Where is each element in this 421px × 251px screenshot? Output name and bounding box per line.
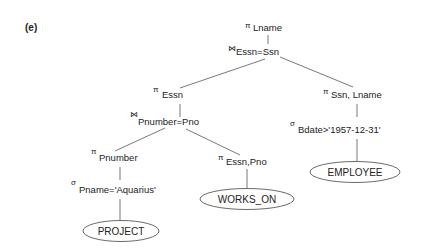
- node-subscript: Essn=Ssn: [236, 46, 279, 57]
- join-icon: ⋈: [228, 44, 236, 53]
- node-subscript: Bdate>'1957-12-31': [298, 124, 381, 135]
- sigma-icon: σ: [290, 119, 295, 128]
- edge-left-join-to-project-essn-pno: [186, 129, 240, 155]
- node-subscript: Essn,Pno: [226, 156, 267, 167]
- node-subscript: Pname='Aquarius': [79, 184, 156, 195]
- node-subscript: Essn: [162, 89, 183, 100]
- node-subscript: Pnumber: [99, 152, 138, 163]
- figure-label: (e): [25, 22, 37, 33]
- query-tree-diagram: (e) π Lname ⋈ Essn=Ssn π Essn ⋈ Pnumber=…: [0, 0, 421, 251]
- node-subscript: Pnumber=Pno: [138, 116, 199, 127]
- node-left-join: ⋈ Pnumber=Pno: [130, 110, 199, 127]
- node-select-pname: σ Pname='Aquarius': [71, 178, 156, 195]
- pi-icon: π: [91, 147, 97, 156]
- relation-label: EMPLOYEE: [327, 167, 382, 178]
- relation-project: PROJECT: [83, 221, 159, 242]
- node-project-essn-pno: π Essn,Pno: [218, 153, 267, 167]
- edge-root-join-to-left-project: [180, 59, 265, 88]
- edge-root-join-to-right-project: [280, 57, 353, 87]
- node-left-project: π Essn: [153, 85, 183, 100]
- relation-works-on: WORKS_ON: [200, 189, 294, 210]
- node-select-bdate: σ Bdate>'1957-12-31': [290, 119, 381, 135]
- relation-label: WORKS_ON: [218, 194, 276, 205]
- pi-icon: π: [245, 21, 251, 30]
- relation-label: PROJECT: [98, 226, 145, 237]
- pi-icon: π: [218, 153, 224, 162]
- edge-left-join-to-project-pnumber: [115, 128, 165, 151]
- pi-icon: π: [153, 85, 159, 94]
- node-project-pnumber: π Pnumber: [91, 147, 138, 163]
- pi-icon: π: [323, 87, 329, 96]
- sigma-icon: σ: [71, 178, 76, 187]
- node-root-join: ⋈ Essn=Ssn: [228, 44, 279, 57]
- node-right-project: π Ssn, Lname: [323, 87, 382, 100]
- join-icon: ⋈: [130, 110, 138, 119]
- node-subscript: Lname: [253, 22, 282, 33]
- node-subscript: Ssn, Lname: [331, 89, 382, 100]
- relation-employee: EMPLOYEE: [310, 162, 400, 183]
- node-root-project: π Lname: [245, 21, 282, 33]
